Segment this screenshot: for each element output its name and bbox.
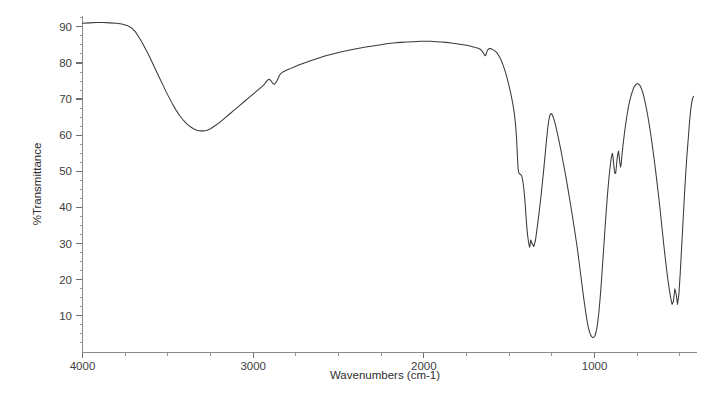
x-axis-ticks — [83, 353, 680, 358]
y-axis-tick-labels: 102030405060708090 — [59, 21, 72, 322]
y-tick-label: 40 — [59, 201, 72, 213]
y-tick-label: 60 — [59, 129, 72, 141]
x-tick-label: 3000 — [240, 360, 266, 372]
x-tick-label: 4000 — [70, 360, 96, 372]
y-tick-label: 20 — [59, 274, 72, 286]
y-tick-label: 10 — [59, 310, 72, 322]
spectrum-figure: 102030405060708090 4000300020001000 %Tra… — [0, 0, 720, 401]
y-axis-title: %Transmittance — [31, 143, 43, 226]
spectrum-trace — [83, 23, 694, 338]
ftir-spectrum-chart: 102030405060708090 4000300020001000 %Tra… — [0, 0, 720, 401]
y-tick-label: 70 — [59, 93, 72, 105]
y-tick-label: 30 — [59, 238, 72, 250]
plot-area: 102030405060708090 4000300020001000 — [59, 16, 697, 372]
x-axis-title: Wavenumbers (cm-1) — [330, 369, 440, 381]
y-axis-ticks — [76, 18, 83, 343]
y-tick-label: 80 — [59, 57, 72, 69]
y-tick-label: 50 — [59, 165, 72, 177]
y-tick-label: 90 — [59, 21, 72, 33]
x-tick-label: 1000 — [582, 360, 608, 372]
